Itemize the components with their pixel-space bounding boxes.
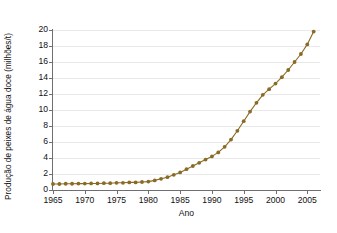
data-point-marker — [83, 182, 87, 186]
x-tick-mark — [244, 191, 245, 194]
x-tick-mark — [307, 191, 308, 194]
y-tick-label-wrap: 10 — [0, 105, 48, 115]
y-tick-label-wrap: 4 — [0, 153, 48, 163]
y-tick-label-wrap: 12 — [0, 89, 48, 99]
data-point-marker — [286, 68, 290, 72]
y-tick-mark — [49, 142, 52, 143]
y-tick-label: 8 — [2, 121, 48, 130]
x-tick-mark — [212, 191, 213, 194]
data-point-marker — [229, 138, 233, 142]
data-point-marker — [70, 182, 74, 186]
data-point-marker — [210, 155, 214, 159]
y-tick-mark — [49, 78, 52, 79]
y-tick-label: 14 — [2, 73, 48, 82]
chart-figure: Produção de peixes de água doce (milhões… — [0, 0, 337, 233]
data-point-marker — [102, 181, 106, 185]
y-tick-mark — [49, 190, 52, 191]
y-tick-label: 0 — [2, 185, 48, 194]
data-point-marker — [235, 129, 239, 133]
y-tick-mark — [49, 158, 52, 159]
y-tick-label-wrap: 2 — [0, 169, 48, 179]
data-point-marker — [166, 175, 170, 179]
data-point-marker — [274, 82, 278, 86]
x-axis-line — [52, 190, 321, 191]
data-point-marker — [178, 171, 182, 175]
data-point-marker — [172, 173, 176, 177]
x-tick-mark — [180, 191, 181, 194]
x-tick-mark — [276, 191, 277, 194]
x-axis-title: Ano — [53, 208, 320, 218]
y-tick-label-wrap: 8 — [0, 121, 48, 131]
data-point-marker — [242, 119, 246, 123]
y-tick-label: 12 — [2, 89, 48, 98]
data-series-line — [53, 30, 320, 190]
data-point-marker — [191, 164, 195, 168]
plot-area — [53, 30, 320, 190]
data-point-marker — [248, 110, 252, 114]
data-point-marker — [159, 177, 163, 181]
y-tick-label-wrap: 0 — [0, 185, 48, 195]
y-tick-label-wrap: 20 — [0, 25, 48, 35]
x-tick-mark — [53, 191, 54, 194]
data-point-marker — [280, 75, 284, 79]
y-tick-label: 18 — [2, 41, 48, 50]
y-tick-label: 20 — [2, 25, 48, 34]
y-tick-mark — [49, 94, 52, 95]
y-tick-mark — [49, 62, 52, 63]
data-point-marker — [305, 43, 309, 47]
data-point-marker — [216, 151, 220, 155]
y-tick-label-wrap: 16 — [0, 57, 48, 67]
data-point-marker — [223, 145, 227, 149]
y-tick-mark — [49, 46, 52, 47]
data-point-marker — [57, 182, 61, 186]
data-point-marker — [299, 52, 303, 56]
series-markers — [51, 30, 315, 186]
x-tick-mark — [85, 191, 86, 194]
data-point-marker — [77, 182, 81, 186]
data-point-marker — [293, 60, 297, 64]
y-tick-label: 16 — [2, 57, 48, 66]
data-point-marker — [115, 181, 119, 185]
data-point-marker — [312, 30, 316, 34]
data-point-marker — [255, 101, 259, 105]
y-tick-label: 10 — [2, 105, 48, 114]
y-tick-label: 2 — [2, 169, 48, 178]
y-tick-label: 4 — [2, 153, 48, 162]
y-tick-mark — [49, 126, 52, 127]
y-tick-mark — [49, 110, 52, 111]
x-tick-mark — [148, 191, 149, 194]
data-point-marker — [204, 158, 208, 162]
data-point-marker — [153, 179, 157, 183]
data-point-marker — [51, 182, 55, 186]
data-point-marker — [140, 180, 144, 184]
y-tick-label-wrap: 18 — [0, 41, 48, 51]
y-tick-mark — [49, 30, 52, 31]
data-point-marker — [134, 181, 138, 185]
data-point-marker — [261, 93, 265, 97]
data-point-marker — [89, 182, 93, 186]
y-tick-label-wrap: 6 — [0, 137, 48, 147]
series-path — [53, 32, 314, 184]
data-point-marker — [127, 181, 131, 185]
y-tick-mark — [49, 174, 52, 175]
data-point-marker — [185, 167, 189, 171]
x-tick-mark — [117, 191, 118, 194]
data-point-marker — [96, 182, 100, 186]
data-point-marker — [197, 161, 201, 165]
y-tick-label: 6 — [2, 137, 48, 146]
data-point-marker — [146, 180, 150, 184]
data-point-marker — [64, 182, 68, 186]
y-tick-label-wrap: 14 — [0, 73, 48, 83]
x-tick-label: 2005 — [287, 195, 327, 205]
data-point-marker — [121, 181, 125, 185]
data-point-marker — [267, 87, 271, 91]
data-point-marker — [108, 181, 112, 185]
